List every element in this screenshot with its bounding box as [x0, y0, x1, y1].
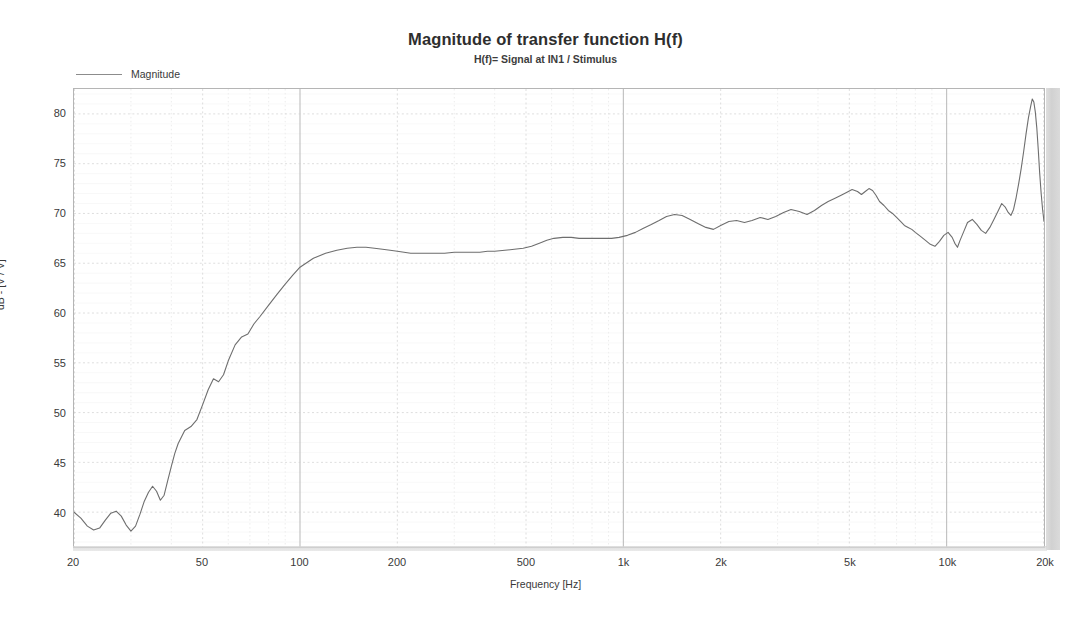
- x-tick-label: 20k: [1036, 556, 1054, 568]
- minor-gridlines: [74, 89, 1044, 547]
- x-tick-label: 200: [388, 556, 406, 568]
- major-gridlines: [74, 89, 1044, 547]
- plot-area: [73, 88, 1045, 548]
- y-tick-label: 45: [32, 457, 66, 469]
- y-tick-label: 70: [32, 207, 66, 219]
- x-tick-label: 1k: [618, 556, 630, 568]
- x-axis-ticks: 20501002005001k2k5k10k20k: [73, 556, 1045, 572]
- y-tick-label: 60: [32, 307, 66, 319]
- x-tick-label: 500: [517, 556, 535, 568]
- legend-line-swatch: [76, 74, 122, 75]
- scan-artifact-right: [1046, 88, 1060, 550]
- x-tick-label: 2k: [715, 556, 727, 568]
- y-tick-label: 75: [32, 157, 66, 169]
- chart-page: Magnitude of transfer function H(f) H(f)…: [0, 0, 1091, 619]
- y-tick-label: 80: [32, 107, 66, 119]
- y-tick-label: 65: [32, 257, 66, 269]
- y-axis-ticks: 404550556065707580: [20, 88, 66, 548]
- x-tick-label: 100: [290, 556, 308, 568]
- x-tick-label: 5k: [844, 556, 856, 568]
- y-tick-label: 55: [32, 357, 66, 369]
- y-tick-label: 50: [32, 407, 66, 419]
- y-tick-label: 40: [32, 507, 66, 519]
- chart-title: Magnitude of transfer function H(f): [0, 30, 1091, 49]
- chart-legend: Magnitude: [76, 68, 180, 80]
- magnitude-curve-svg: [74, 89, 1044, 547]
- x-tick-label: 50: [196, 556, 208, 568]
- scan-artifact-bottom: [73, 546, 1047, 551]
- chart-subtitle: H(f)= Signal at IN1 / Stimulus: [0, 53, 1091, 65]
- x-axis-title: Frequency [Hz]: [0, 578, 1091, 590]
- x-tick-label: 20: [67, 556, 79, 568]
- x-tick-label: 10k: [939, 556, 957, 568]
- y-axis-title: dB - [V / V]: [0, 259, 6, 310]
- legend-label-magnitude: Magnitude: [131, 68, 180, 80]
